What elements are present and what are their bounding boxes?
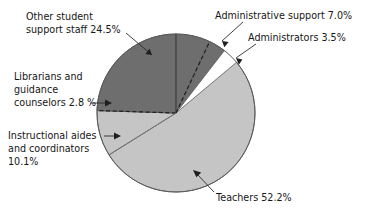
label-other-student-support-staff-line1: Other student xyxy=(26,11,93,22)
label-librarians-line2: guidance xyxy=(14,84,58,95)
pie-chart-figure: Other student support staff 24.5% Admini… xyxy=(0,0,372,215)
label-librarians-line1: Librarians and xyxy=(14,71,83,82)
label-other-student-support-staff-line2: support staff 24.5% xyxy=(26,24,121,35)
label-administrative-support: Administrative support 7.0% xyxy=(215,10,352,21)
label-instructional-aides-line1: Instructional aides xyxy=(8,130,96,141)
label-administrators: Administrators 3.5% xyxy=(248,32,346,43)
label-instructional-aides-line3: 10.1% xyxy=(8,156,38,167)
label-teachers: Teachers 52.2% xyxy=(215,192,292,203)
pie-chart-svg: Other student support staff 24.5% Admini… xyxy=(0,0,372,215)
label-librarians-line3: counselors 2.8 % xyxy=(14,97,96,108)
label-instructional-aides-line2: and coordinators xyxy=(8,143,89,154)
